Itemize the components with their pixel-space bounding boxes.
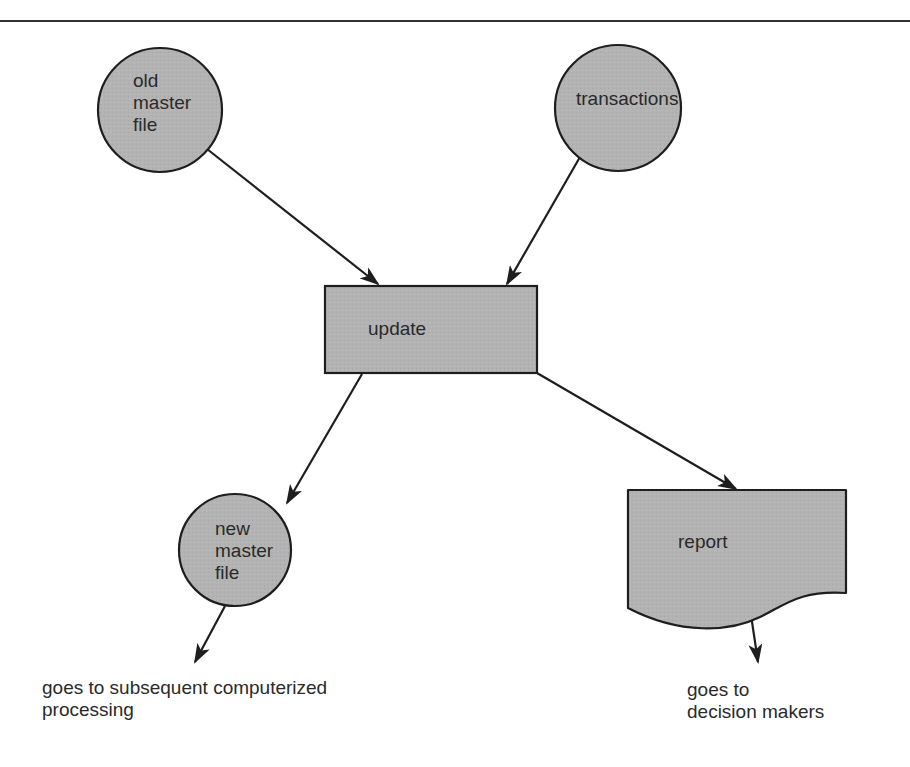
edge-new-master-to-processing — [195, 606, 225, 662]
update-label: update — [368, 318, 426, 340]
edge-update-to-report — [537, 373, 736, 489]
transactions-label: transactions — [576, 88, 678, 110]
report-document-node — [628, 490, 846, 628]
caption-decision-makers: goes to decision makers — [687, 679, 824, 723]
update-process-node — [325, 286, 537, 373]
edge-old-master-to-update — [207, 149, 378, 284]
edge-update-to-new-master — [287, 374, 362, 503]
edge-transactions-to-update — [507, 157, 580, 284]
report-label: report — [678, 531, 728, 553]
old-master-file-label: old master file — [133, 70, 191, 136]
new-master-file-label: new master file — [215, 518, 273, 584]
caption-subsequent-processing: goes to subsequent computerized processi… — [42, 677, 327, 721]
edge-report-to-decision-makers — [751, 615, 758, 662]
